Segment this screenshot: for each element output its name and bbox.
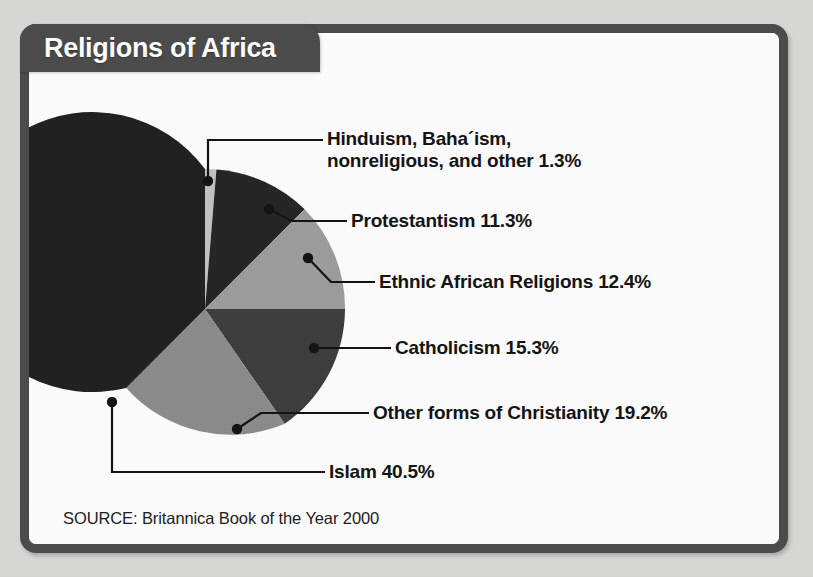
pie-label-islam: Islam 40.5% xyxy=(329,461,435,483)
pie-chart: Hinduism, Baha´ism, nonreligious, and ot… xyxy=(29,33,779,544)
pie-label-other-forms-of-christianity: Other forms of Christianity 19.2% xyxy=(373,402,667,424)
chart-card-inner: Hinduism, Baha´ism, nonreligious, and ot… xyxy=(29,33,779,544)
pie-label-protestantism: Protestantism 11.3% xyxy=(351,210,532,232)
pie-label-catholicism: Catholicism 15.3% xyxy=(395,337,558,359)
card-title-tab: Religions of Africa xyxy=(20,24,320,72)
pie-label-ethnic-african-religions: Ethnic African Religions 12.4% xyxy=(379,271,651,293)
pie-label-hinduism-bahaism-nonreligious-other: Hinduism, Baha´ism, nonreligious, and ot… xyxy=(327,128,581,172)
source-note: SOURCE: Britannica Book of the Year 2000 xyxy=(63,509,379,528)
chart-card: Hinduism, Baha´ism, nonreligious, and ot… xyxy=(20,24,788,553)
page-title: Religions of Africa xyxy=(44,33,276,64)
